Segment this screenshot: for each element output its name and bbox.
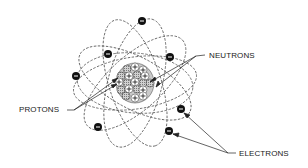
proton (139, 92, 147, 100)
protons-pointer-1 (67, 78, 118, 110)
neutrons-label: NEUTRONS (209, 51, 255, 60)
electrons-pointer-2 (173, 134, 228, 153)
electrons-label: ELECTRONS (239, 149, 289, 158)
proton (131, 94, 139, 102)
electron (177, 105, 185, 113)
electron (138, 17, 146, 25)
electrons-arrowhead-2 (173, 133, 179, 137)
proton (125, 72, 133, 80)
protons-pointer-2 (74, 84, 117, 110)
proton (131, 63, 139, 71)
neutron (123, 65, 131, 73)
atom-diagram (0, 0, 308, 168)
electron (166, 53, 174, 61)
proton (141, 72, 149, 80)
neutron (133, 71, 141, 79)
neutron (122, 92, 130, 100)
protons-label: PROTONS (19, 105, 59, 114)
electron (165, 127, 173, 135)
electron (72, 72, 80, 80)
electron (94, 123, 102, 131)
neutrons-pointer-2 (156, 56, 196, 87)
electron (104, 50, 112, 58)
neutrons-arrowhead-2 (156, 81, 160, 87)
proton (131, 78, 139, 86)
